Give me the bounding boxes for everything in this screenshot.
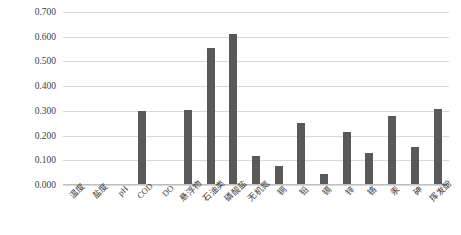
bar-cell: [222, 12, 245, 185]
bar-cell: [404, 12, 427, 185]
x-label-cell: pH: [108, 186, 131, 235]
x-label-cell: 悬浮物: [177, 186, 200, 235]
bar: [388, 116, 396, 185]
x-axis-category-labels: 温度盐度pHCODDO悬浮物石油类磷酸盐无机氮铜铅镉锌铬汞砷挥发酚: [63, 186, 449, 235]
bar: [275, 166, 283, 185]
x-label-cell: 铅: [290, 186, 313, 235]
x-label-cell: 温度: [63, 186, 86, 235]
bar-cell: [313, 12, 336, 185]
y-axis-tick-label: 0.100: [8, 155, 56, 165]
bar-cell: [358, 12, 381, 185]
x-label-cell: 石油类: [199, 186, 222, 235]
x-label-cell: DO: [154, 186, 177, 235]
y-axis-tick-label: 0.300: [8, 106, 56, 116]
y-axis-tick-label: 0.400: [8, 81, 56, 91]
x-label-cell: 汞: [381, 186, 404, 235]
bar: [343, 132, 351, 185]
bar-cell: [267, 12, 290, 185]
x-label-cell: COD: [131, 186, 154, 235]
bar: [184, 110, 192, 185]
bar-series: [63, 12, 449, 185]
y-axis-tick-label: 0.200: [8, 131, 56, 141]
x-label-cell: 镉: [313, 186, 336, 235]
bar-cell: [154, 12, 177, 185]
plot-area: [63, 12, 449, 185]
x-axis-tick-label: pH: [116, 184, 130, 198]
bar-cell: [86, 12, 109, 185]
y-axis-tick-label: 0.700: [8, 7, 56, 17]
bar: [207, 48, 215, 185]
x-label-cell: 无机氮: [245, 186, 268, 235]
x-axis-tick-label: 铬: [366, 185, 379, 198]
bar-cell: [426, 12, 449, 185]
bar: [297, 123, 305, 185]
x-axis-tick-label: 汞: [389, 185, 402, 198]
bar: [434, 109, 442, 185]
y-axis-tick-label: 0.600: [8, 32, 56, 42]
bar: [138, 111, 146, 185]
bar-chart: 0.7000.6000.5000.4000.3000.2000.1000.000…: [0, 0, 461, 235]
x-axis-tick-label: DO: [161, 184, 176, 199]
bar: [411, 147, 419, 185]
x-axis-tick-label: 铜: [275, 185, 288, 198]
x-label-cell: 砷: [404, 186, 427, 235]
x-label-cell: 铬: [358, 186, 381, 235]
bar-cell: [381, 12, 404, 185]
bar-cell: [108, 12, 131, 185]
x-label-cell: 挥发酚: [426, 186, 449, 235]
x-label-cell: 锌: [335, 186, 358, 235]
bar-cell: [131, 12, 154, 185]
x-label-cell: 铜: [267, 186, 290, 235]
bar-cell: [177, 12, 200, 185]
bar-cell: [63, 12, 86, 185]
bar: [252, 156, 260, 185]
y-axis-tick-label: 0.500: [8, 56, 56, 66]
bar-cell: [335, 12, 358, 185]
x-label-cell: 盐度: [86, 186, 109, 235]
bar-cell: [199, 12, 222, 185]
y-axis-tick-label: 0.000: [8, 180, 56, 190]
x-label-cell: 磷酸盐: [222, 186, 245, 235]
bar-cell: [245, 12, 268, 185]
bar: [229, 34, 237, 185]
x-axis-tick-label: 铅: [298, 185, 311, 198]
bar-cell: [290, 12, 313, 185]
x-axis-tick-label: 锌: [344, 185, 357, 198]
bar: [365, 153, 373, 185]
x-axis-tick-label: 砷: [412, 185, 425, 198]
x-axis-tick-label: 镉: [321, 185, 334, 198]
